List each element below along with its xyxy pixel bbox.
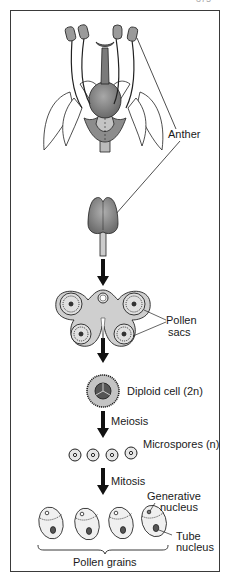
diploid-cell bbox=[87, 375, 119, 407]
stamen bbox=[88, 197, 118, 256]
microspores-label: Microspores (n) bbox=[143, 438, 219, 450]
meiosis-label: Meiosis bbox=[111, 415, 148, 427]
anther-label: Anther bbox=[168, 128, 200, 140]
generative-nucleus-label-2: nucleus bbox=[160, 501, 198, 513]
pollen-grain bbox=[105, 505, 136, 542]
pollen-grains bbox=[36, 502, 172, 554]
pollen-grain bbox=[71, 506, 102, 543]
tube-nucleus-label-2: nucleus bbox=[176, 541, 214, 553]
flower bbox=[44, 24, 163, 152]
mitosis-label: Mitosis bbox=[111, 475, 145, 487]
pollen-sacs-label-1: Pollen bbox=[166, 314, 197, 326]
microspores bbox=[69, 447, 137, 461]
diploid-cell-label: Diploid cell (2n) bbox=[127, 385, 203, 397]
pollen-sacs-label-2: sacs bbox=[168, 326, 191, 338]
anther-cross-section bbox=[56, 290, 166, 346]
pollen-grain bbox=[36, 505, 66, 541]
pollen-grains-label: Pollen grains bbox=[73, 556, 137, 568]
